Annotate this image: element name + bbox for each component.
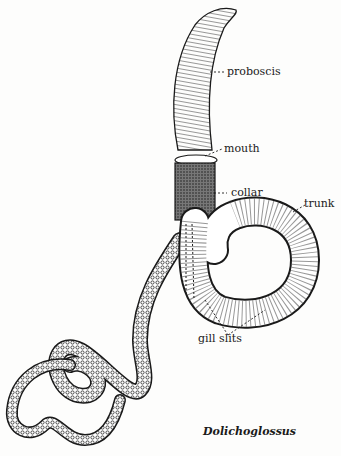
proboscis-shape	[174, 8, 237, 150]
label-trunk: trunk	[304, 198, 335, 209]
trunk-shape	[186, 211, 305, 313]
worm-illustration	[0, 0, 341, 456]
tail-shape	[12, 240, 180, 440]
label-collar: collar	[231, 187, 263, 198]
label-gill-slits: gill slits	[198, 333, 242, 344]
figure-canvas: proboscis mouth collar trunk gill slits …	[0, 0, 341, 456]
figure-caption: Dolichoglossus	[203, 425, 296, 438]
label-mouth: mouth	[224, 143, 260, 154]
label-proboscis: proboscis	[227, 66, 281, 77]
